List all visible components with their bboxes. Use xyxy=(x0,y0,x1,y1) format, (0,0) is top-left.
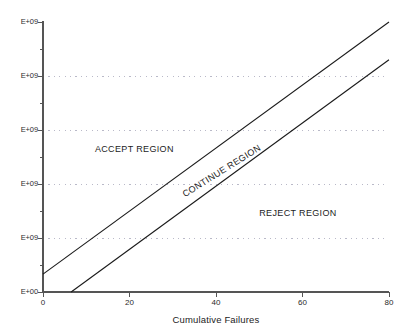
chart-container: E+00E+09E+09E+09E+09E+09 020406080 ACCEP… xyxy=(0,0,407,336)
y-tick-label-0: E+00 xyxy=(0,287,38,296)
y-tick-label-3: E+09 xyxy=(0,125,38,134)
series-reject-boundary xyxy=(71,60,389,292)
annotation-accept-region: ACCEPT REGION xyxy=(95,144,174,154)
axes-group xyxy=(43,21,389,292)
gridlines-group xyxy=(43,76,389,238)
series-lines-group xyxy=(43,22,389,292)
y-tick-label-5: E+09 xyxy=(0,17,38,26)
x-tick-label-4: 80 xyxy=(385,298,394,307)
annotation-reject-region: REJECT REGION xyxy=(259,208,336,218)
x-tick-label-3: 60 xyxy=(298,298,307,307)
chart-plot-area xyxy=(0,0,407,336)
y-tick-label-4: E+09 xyxy=(0,71,38,80)
x-axis-title: Cumulative Failures xyxy=(173,314,260,325)
y-tick-label-1: E+09 xyxy=(0,233,38,242)
x-tick-label-1: 20 xyxy=(125,298,134,307)
y-tick-label-2: E+09 xyxy=(0,179,38,188)
x-ticks-group xyxy=(43,292,389,297)
x-tick-label-2: 40 xyxy=(212,298,221,307)
x-tick-label-0: 0 xyxy=(41,298,45,307)
